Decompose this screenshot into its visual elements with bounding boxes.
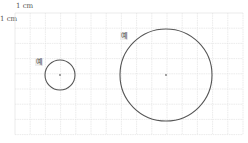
small-circle-label: 예 [35,58,43,66]
large-circle-label: 예 [120,32,128,40]
grid-diagram [0,0,248,143]
large-circle-center-point [165,74,167,76]
small-circle-center-point [59,74,61,76]
